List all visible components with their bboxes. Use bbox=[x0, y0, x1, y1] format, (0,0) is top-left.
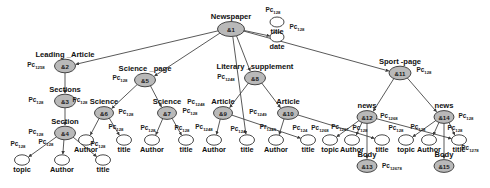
leaf-label: title bbox=[271, 27, 284, 36]
edge-label: Pc128 bbox=[119, 108, 135, 117]
leaf-label: topic bbox=[397, 145, 414, 154]
node-type-label: news bbox=[435, 101, 454, 110]
edge-label: Pc128 bbox=[183, 107, 199, 116]
edge-label: Pr1249 bbox=[260, 123, 277, 132]
node-type-label: Sport -page bbox=[379, 57, 421, 66]
tree-edge bbox=[407, 78, 436, 112]
leaf-label: Author bbox=[140, 145, 164, 154]
leaf-label: Author bbox=[74, 145, 98, 154]
node-id: &13 bbox=[361, 163, 373, 170]
leaf-node[interactable] bbox=[270, 17, 284, 27]
edge-label: Pc128 bbox=[109, 123, 125, 132]
edge-label: Pc128 bbox=[29, 96, 45, 105]
leaf-node[interactable] bbox=[240, 135, 255, 145]
node-type-label: Literary _supplement bbox=[217, 62, 294, 71]
leaf-label: Author bbox=[202, 145, 226, 154]
leaf-node[interactable] bbox=[399, 135, 414, 145]
tree-edge bbox=[90, 118, 99, 135]
leaf-label: title bbox=[302, 145, 315, 154]
edge-label: Pc1249 bbox=[249, 108, 267, 117]
node-type-label: Newspaper bbox=[211, 12, 252, 21]
node-id: &10 bbox=[282, 110, 294, 117]
leaf-node[interactable] bbox=[301, 135, 316, 145]
edge-label: Pc128 bbox=[448, 124, 464, 133]
node-type-label: Science _page bbox=[119, 64, 172, 73]
leaf-label: Author bbox=[417, 145, 441, 154]
node-type-label: Sections bbox=[49, 85, 81, 94]
node-id: &15 bbox=[438, 163, 450, 170]
edge-label: Pc128 bbox=[11, 140, 27, 149]
edge-label: Pc128 bbox=[417, 66, 433, 75]
tree-edge bbox=[216, 119, 220, 134]
node-id: &3 bbox=[61, 98, 69, 105]
node-id: &6 bbox=[100, 110, 108, 117]
leaf-node[interactable] bbox=[422, 135, 437, 145]
edge-label: Pc124 bbox=[231, 125, 247, 134]
leaf-label: title bbox=[97, 165, 110, 174]
edge-label: Pc128 bbox=[411, 123, 427, 132]
tree-edge bbox=[156, 119, 163, 135]
leaf-node[interactable] bbox=[145, 135, 160, 145]
leaf-node[interactable] bbox=[96, 155, 111, 165]
leaf-label: date bbox=[269, 42, 284, 51]
edge-label: Pc128 bbox=[175, 124, 191, 133]
edge-label: Pc128 bbox=[353, 124, 369, 133]
edge-label: Pc1248 bbox=[217, 73, 235, 82]
node-type-label: Section bbox=[51, 117, 79, 126]
node-id: &4 bbox=[61, 130, 69, 137]
leaf-node[interactable] bbox=[179, 135, 194, 145]
node-type-label: news bbox=[358, 101, 377, 110]
leaf-label: title bbox=[453, 145, 466, 154]
leaf-node[interactable] bbox=[55, 155, 70, 165]
leaf-node[interactable] bbox=[117, 135, 132, 145]
edge-label: Pc128 bbox=[39, 138, 55, 147]
leaf-label: Author bbox=[340, 145, 364, 154]
edge-label: Pc12678 bbox=[382, 162, 402, 171]
node-id: &9 bbox=[219, 110, 227, 117]
edge-label: Pc124 bbox=[293, 124, 309, 133]
edge-label: Pc128 bbox=[266, 6, 282, 15]
leaf-label: Author bbox=[264, 145, 288, 154]
node-type-label: Article bbox=[211, 97, 235, 106]
node-id: &2 bbox=[61, 63, 69, 70]
tree-edge bbox=[433, 122, 439, 135]
leaf-node[interactable] bbox=[207, 135, 222, 145]
leaf-node[interactable] bbox=[323, 135, 338, 145]
node-id: &12 bbox=[361, 114, 373, 121]
leaf-label: topic bbox=[321, 145, 338, 154]
node-id: &5 bbox=[141, 77, 149, 84]
leaf-node[interactable] bbox=[345, 135, 360, 145]
leaf-label: title bbox=[376, 145, 389, 154]
edge-label: Pc1258 bbox=[27, 61, 45, 70]
edge-label: Pc128 bbox=[290, 23, 306, 32]
tree-edge bbox=[243, 30, 270, 36]
tree-edge bbox=[63, 140, 64, 154]
leaf-label: title bbox=[118, 145, 131, 154]
node-id: &1 bbox=[227, 26, 235, 33]
leaf-node[interactable] bbox=[375, 135, 390, 145]
tree-diagram: &1&2&3&4&5&6&7&8&9&10&11&12&13&14&15 Pc1… bbox=[0, 0, 490, 188]
node-type-label: Science bbox=[90, 97, 119, 106]
node-id: &7 bbox=[163, 110, 171, 117]
edge-label: Pc1268 bbox=[311, 124, 329, 133]
node-type-label: Science bbox=[153, 97, 182, 106]
node-id: &14 bbox=[438, 114, 450, 121]
leaf-node[interactable] bbox=[269, 135, 284, 145]
leaf-label: title bbox=[180, 145, 193, 154]
edge-label: Pc128 bbox=[141, 124, 157, 133]
leaf-node[interactable] bbox=[15, 155, 30, 165]
leaf-label: title bbox=[241, 145, 254, 154]
edge-label: Pc1248 bbox=[187, 98, 205, 107]
diagram-canvas: &1&2&3&4&5&6&7&8&9&10&11&12&13&14&15 Pc1… bbox=[0, 0, 490, 188]
node-type-label: Article bbox=[276, 97, 300, 106]
edge-label: Pc1267 bbox=[331, 123, 349, 132]
node-id: &11 bbox=[395, 70, 406, 77]
edge-label: Pc128 bbox=[29, 128, 45, 137]
edge-label: Pc128 bbox=[459, 112, 475, 121]
node-type-label: Leading _Article bbox=[35, 50, 94, 59]
edge-label: Pc1248 bbox=[195, 123, 213, 132]
edge-label: Pc1268 bbox=[380, 112, 398, 121]
leaf-label: Author bbox=[50, 165, 74, 174]
node-id: &8 bbox=[251, 75, 259, 82]
edge-label: Pc128 bbox=[113, 74, 129, 83]
